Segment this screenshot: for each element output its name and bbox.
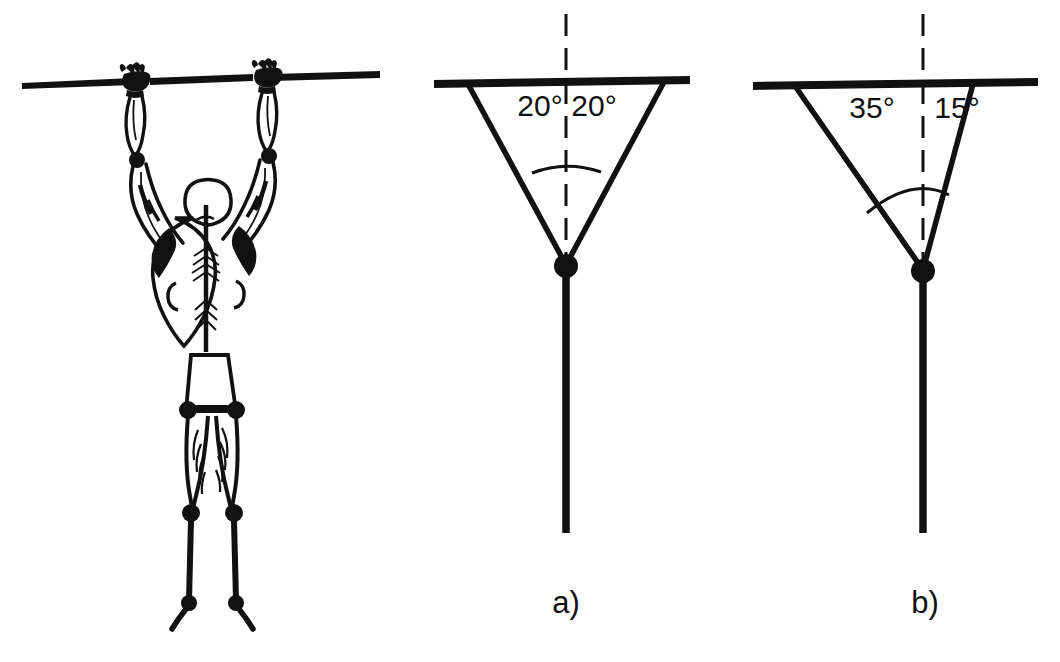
right-knee-joint <box>225 504 243 522</box>
left-knee-joint <box>182 504 200 522</box>
pelvis-bar <box>190 405 236 413</box>
schematic-b-angle-label-left: 35° <box>849 91 894 124</box>
schematic-a-angle-label-left: 20° <box>517 89 562 122</box>
figure-svg: 20° 20° a) 35° 15° b) <box>0 0 1060 662</box>
schematic-a-caption: a) <box>552 585 580 620</box>
right-shank <box>234 521 236 600</box>
left-shank <box>189 521 191 600</box>
schematic-b-angle-label-right: 15° <box>934 91 979 124</box>
figure-container: 20° 20° a) 35° 15° b) <box>0 0 1060 662</box>
schematic-a-angle-label-right: 20° <box>571 89 616 122</box>
schematic-b-caption: b) <box>911 585 939 620</box>
